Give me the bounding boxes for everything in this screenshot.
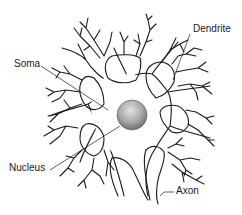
axon-label: Axon <box>176 186 199 196</box>
dendrite-leader-line <box>173 34 190 80</box>
soma-label: Soma <box>14 59 40 69</box>
axon-leader-line <box>160 192 174 196</box>
nucleus-label: Nucleus <box>9 163 45 173</box>
neuron-diagram: Dendrite Soma Nucleus Axon <box>0 0 242 215</box>
nucleus-sphere <box>117 100 147 130</box>
dendrite-label: Dendrite <box>193 24 231 34</box>
